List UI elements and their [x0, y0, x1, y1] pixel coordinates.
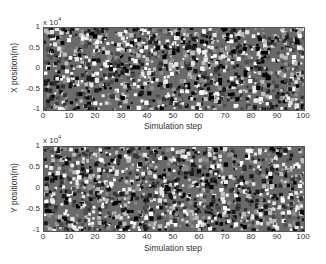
- y-tick-label: 0.5: [20, 163, 40, 171]
- x-tick-label: 90: [267, 233, 287, 241]
- x-tick-label: 10: [59, 233, 79, 241]
- y-tick-label: 0: [20, 184, 40, 192]
- y-position-plot-area: [43, 146, 305, 232]
- y-tick-label: -0.5: [20, 205, 40, 213]
- x-tick-label: 70: [215, 233, 235, 241]
- x-tick-label: 30: [111, 233, 131, 241]
- y-axis-label: Y position(m): [9, 143, 19, 233]
- y-position-panel: x 104 10.50-0.5-1 0102030405060708090100…: [0, 0, 326, 264]
- x-tick-label: 50: [163, 233, 183, 241]
- scatter-markers: [44, 147, 304, 231]
- x-tick-label: 40: [137, 233, 157, 241]
- x-tick-label: 60: [189, 233, 209, 241]
- exponent-base: x 10: [43, 136, 58, 145]
- x-tick-label: 0: [33, 233, 53, 241]
- x-axis-label: Simulation step: [113, 243, 233, 253]
- x-tick-label: 100: [293, 233, 313, 241]
- y-exponent-label: x 104: [43, 134, 61, 145]
- x-tick-label: 20: [85, 233, 105, 241]
- y-tick-label: 1: [20, 142, 40, 150]
- x-tick-label: 80: [241, 233, 261, 241]
- exponent-power: 4: [58, 134, 61, 140]
